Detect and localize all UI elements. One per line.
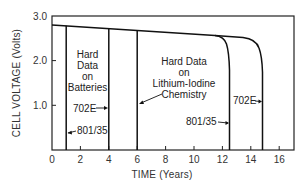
x-tick-label: 2 bbox=[78, 154, 84, 165]
svg-text:Batteries: Batteries bbox=[68, 82, 107, 93]
svg-text:Hard: Hard bbox=[77, 49, 99, 60]
x-tick-label: 14 bbox=[245, 154, 257, 165]
annotation-801-35-lithium: 801/35 bbox=[186, 116, 229, 127]
x-axis-title: TIME (Years) bbox=[132, 169, 193, 180]
x-axis bbox=[80, 146, 279, 150]
y-tick-label: 2.0 bbox=[33, 55, 47, 66]
svg-text:801/35: 801/35 bbox=[186, 116, 217, 127]
y-tick-label: 1.0 bbox=[33, 100, 47, 111]
x-tick-label: 12 bbox=[217, 154, 229, 165]
svg-text:Lithium-Iodine: Lithium-Iodine bbox=[153, 78, 216, 89]
curve-702e bbox=[215, 36, 263, 151]
svg-text:Chemistry: Chemistry bbox=[161, 89, 206, 100]
x-tick-label: 8 bbox=[163, 154, 169, 165]
x-tick-label: 10 bbox=[188, 154, 200, 165]
annotation-801-35-batteries: 801/35 bbox=[68, 125, 109, 136]
annotation-702e-lithium: 702E bbox=[233, 95, 262, 106]
x-tick-labels: 0 2 4 6 8 10 12 14 16 TIME (Years) bbox=[49, 154, 285, 180]
svg-text:702E: 702E bbox=[73, 103, 97, 114]
svg-text:801/35: 801/35 bbox=[77, 125, 108, 136]
y-tick-label: 3.0 bbox=[33, 11, 47, 22]
y-axis-title: CELL VOLTAGE (Volts) bbox=[11, 29, 22, 137]
svg-text:Hard Data: Hard Data bbox=[161, 56, 207, 67]
x-tick-label: 6 bbox=[134, 154, 140, 165]
x-tick-label: 0 bbox=[49, 154, 55, 165]
annotation-lithium-iodine: Hard Data on Lithium-Iodine Chemistry bbox=[139, 56, 216, 104]
svg-text:on: on bbox=[178, 67, 189, 78]
svg-text:702E: 702E bbox=[233, 95, 257, 106]
svg-text:Data: Data bbox=[77, 60, 99, 71]
x-tick-label: 16 bbox=[274, 154, 286, 165]
battery-voltage-chart: 1.0 2.0 3.0 CELL VOLTAGE (Volts) 0 2 4 6… bbox=[0, 0, 305, 189]
svg-text:on: on bbox=[82, 71, 93, 82]
y-axis: 1.0 2.0 3.0 CELL VOLTAGE (Volts) bbox=[11, 11, 56, 137]
annotation-702e-batteries: 702E bbox=[73, 103, 108, 114]
annotation-batteries: Hard Data on Batteries bbox=[68, 49, 107, 93]
x-tick-label: 4 bbox=[106, 154, 112, 165]
